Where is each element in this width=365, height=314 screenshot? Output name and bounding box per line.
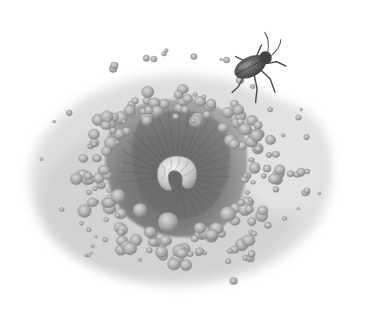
pebble — [223, 57, 229, 63]
pebble — [40, 158, 43, 161]
pebble — [300, 108, 303, 111]
pebble — [242, 235, 256, 246]
pebble — [268, 174, 281, 184]
pebble — [281, 134, 285, 137]
pebble — [100, 121, 111, 130]
pebble — [91, 245, 95, 248]
pebble — [78, 205, 92, 218]
pebble — [248, 198, 252, 202]
pebble — [287, 170, 294, 177]
pebble — [111, 189, 125, 203]
pebble — [296, 115, 302, 120]
pebble — [181, 106, 189, 114]
pebble — [273, 187, 279, 193]
pebble — [106, 118, 110, 122]
pebble — [89, 129, 100, 139]
pebble — [87, 228, 92, 232]
pebble — [191, 54, 198, 60]
pebble — [268, 107, 273, 112]
pebble — [138, 258, 142, 261]
pebble — [70, 173, 82, 185]
pebble — [255, 146, 262, 153]
pebble — [155, 246, 167, 258]
pebble — [245, 191, 250, 195]
pebble — [59, 208, 64, 212]
pebble — [237, 200, 245, 207]
pebble — [251, 181, 256, 185]
pebble — [193, 93, 198, 97]
pebble — [93, 186, 98, 191]
pebble — [222, 107, 234, 118]
pebble — [250, 84, 255, 89]
pebble — [203, 111, 212, 118]
pebble — [142, 116, 152, 126]
pebble — [87, 198, 98, 207]
pebble — [229, 139, 240, 149]
pebble — [297, 207, 300, 210]
pebble — [142, 86, 154, 98]
pebble — [206, 230, 218, 241]
pebble — [251, 231, 256, 236]
pebble — [172, 113, 179, 119]
pebble — [265, 135, 275, 145]
pebble — [183, 95, 193, 104]
pebble — [191, 118, 196, 123]
pebble — [158, 212, 178, 232]
pebble — [220, 58, 223, 60]
pebble — [98, 165, 110, 175]
pebble — [85, 254, 88, 257]
pebble — [53, 120, 56, 123]
pebble — [305, 169, 310, 174]
pebble — [248, 257, 252, 260]
pebble — [92, 155, 101, 162]
pebble — [162, 51, 167, 56]
pebble — [304, 188, 310, 193]
pebble — [146, 247, 152, 253]
pebble — [266, 152, 272, 157]
pebble — [168, 258, 181, 270]
pebble — [115, 213, 121, 217]
pebble — [254, 121, 263, 129]
pebble — [227, 249, 233, 254]
pebble — [98, 184, 103, 188]
pebble — [250, 130, 263, 142]
pebble — [132, 98, 139, 104]
pebble — [304, 134, 310, 140]
pebble — [110, 127, 117, 133]
pebble — [90, 252, 92, 254]
pebble — [194, 223, 206, 234]
pebble — [101, 147, 111, 156]
pebble — [258, 206, 268, 215]
pebble — [144, 106, 153, 115]
pebble — [272, 151, 280, 157]
pebble — [123, 243, 137, 255]
pebble — [115, 140, 119, 144]
pebble — [117, 229, 124, 236]
pebble — [195, 248, 204, 256]
pebble — [103, 237, 108, 242]
pebble — [122, 120, 126, 124]
illustration-canvas — [0, 0, 365, 314]
pebble — [264, 222, 271, 228]
pebble — [225, 259, 231, 264]
pebble — [245, 205, 253, 213]
pebble — [248, 251, 255, 258]
pebble — [206, 99, 216, 109]
pebble — [79, 155, 88, 163]
pebble — [86, 190, 91, 195]
pebble — [261, 174, 266, 179]
pebble — [80, 221, 84, 225]
pebble — [133, 203, 147, 216]
pebble — [144, 227, 156, 238]
pebble — [282, 217, 287, 221]
pebble — [202, 95, 206, 99]
pebble — [151, 56, 157, 62]
pebble — [230, 278, 238, 285]
pebble — [220, 206, 236, 221]
pebble — [218, 123, 229, 132]
pebble — [275, 165, 285, 175]
pebble — [297, 168, 305, 176]
pebble — [124, 105, 135, 116]
pebble — [249, 157, 255, 162]
pebble — [191, 235, 198, 242]
